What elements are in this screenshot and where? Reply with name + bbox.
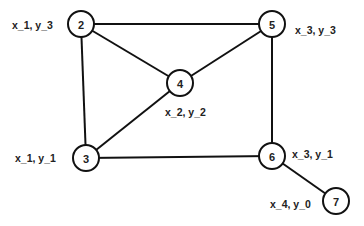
coord-label-node-4: x_2, y_2 bbox=[165, 106, 206, 118]
edge-3-6 bbox=[86, 156, 272, 158]
coordinate-labels-group: x_1, y_3x_3, y_3x_2, y_2x_1, y_1x_3, y_1… bbox=[12, 19, 336, 210]
node-number: 2 bbox=[78, 19, 84, 31]
edge-4-5 bbox=[180, 24, 272, 83]
coord-label-node-6: x_3, y_1 bbox=[292, 148, 333, 160]
node-number: 6 bbox=[269, 151, 275, 163]
coord-label-node-3: x_1, y_1 bbox=[15, 152, 56, 164]
coord-label-node-5: x_3, y_3 bbox=[295, 24, 336, 36]
node-7: 7 bbox=[323, 188, 349, 214]
edges-group bbox=[81, 24, 336, 201]
node-5: 5 bbox=[259, 11, 285, 37]
edge-4-3 bbox=[86, 83, 180, 158]
node-number: 4 bbox=[177, 78, 184, 90]
coord-label-node-7: x_4, y_0 bbox=[270, 198, 311, 210]
node-4: 4 bbox=[167, 70, 193, 96]
node-number: 5 bbox=[269, 19, 275, 31]
coord-label-node-2: x_1, y_3 bbox=[12, 19, 53, 31]
node-6: 6 bbox=[259, 143, 285, 169]
graph-diagram: 254367 x_1, y_3x_3, y_3x_2, y_2x_1, y_1x… bbox=[0, 0, 364, 226]
edge-2-4 bbox=[81, 24, 180, 83]
node-3: 3 bbox=[73, 145, 99, 171]
edge-2-3 bbox=[81, 24, 86, 158]
node-2: 2 bbox=[68, 11, 94, 37]
node-number: 7 bbox=[333, 196, 339, 208]
node-number: 3 bbox=[83, 153, 89, 165]
